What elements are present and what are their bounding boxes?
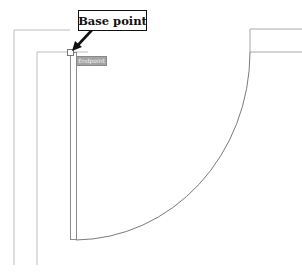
right-wall — [250, 29, 302, 52]
endpoint-snap-tooltip: Endpoint — [76, 56, 107, 66]
drawing-canvas[interactable] — [0, 0, 302, 274]
left-wall-inner-line — [37, 52, 88, 265]
base-point-callout: Base point — [78, 10, 147, 31]
callout-arrow-icon — [72, 30, 92, 51]
left-wall-outer-line — [14, 30, 70, 265]
door-panel[interactable] — [71, 53, 77, 240]
door-swing-arc[interactable] — [76, 52, 250, 240]
right-wall-outer-line — [250, 29, 302, 52]
